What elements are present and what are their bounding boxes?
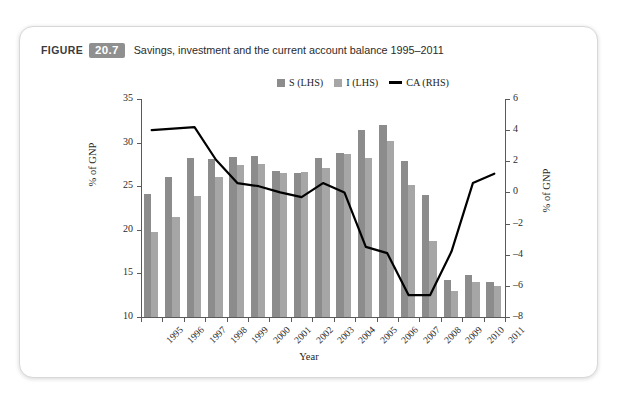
- x-axis-tick: [441, 318, 442, 322]
- y-axis-left-tick-label: 30: [107, 136, 133, 147]
- x-axis-tick: [184, 318, 185, 322]
- x-axis-tick-label: 2007: [420, 324, 441, 345]
- y-axis-left-tick: [137, 273, 141, 274]
- chart-plot-panel: S (LHS)I (LHS)CA (RHS) 101520253035 –8–6…: [73, 73, 545, 361]
- x-axis-tick: [162, 318, 163, 322]
- legend-label: CA (RHS): [406, 77, 449, 88]
- y-axis-left-tick-label: 10: [107, 310, 133, 321]
- y-axis-left-label: % of GNP: [87, 143, 98, 187]
- y-axis-right-tick-label: –4: [513, 248, 539, 259]
- y-axis-right-tick: [506, 317, 510, 318]
- x-axis-tick: [484, 318, 485, 322]
- y-axis-left-tick: [137, 99, 141, 100]
- x-axis-tick: [419, 318, 420, 322]
- x-axis-tick-label: 1995: [163, 324, 184, 345]
- y-axis-left-tick-label: 25: [107, 179, 133, 190]
- x-axis-tick-label: 1998: [228, 324, 249, 345]
- y-axis-right-tick-label: –8: [513, 310, 539, 321]
- chart-legend: S (LHS)I (LHS)CA (RHS): [233, 77, 493, 88]
- x-axis-tick-label: 2004: [356, 324, 377, 345]
- y-axis-right-tick: [506, 286, 510, 287]
- legend-item: I (LHS): [334, 77, 378, 88]
- x-axis-line: [141, 317, 506, 318]
- x-axis-tick: [312, 318, 313, 322]
- y-axis-left-tick-label: 35: [107, 92, 133, 103]
- figure-number-badge: 20.7: [89, 43, 125, 58]
- x-axis-tick: [291, 318, 292, 322]
- x-axis-tick: [334, 318, 335, 322]
- x-axis-tick-label: 1996: [185, 324, 206, 345]
- x-axis-tick: [462, 318, 463, 322]
- x-axis-tick: [248, 318, 249, 322]
- x-axis-tick: [141, 318, 142, 322]
- x-axis-tick: [269, 318, 270, 322]
- x-axis-label: Year: [73, 351, 545, 362]
- x-axis-tick-label: 1997: [206, 324, 227, 345]
- x-axis-tick-label: 1999: [249, 324, 270, 345]
- legend-label: I (LHS): [346, 77, 378, 88]
- legend-square-swatch-icon: [334, 79, 342, 87]
- legend-line-swatch-icon: [389, 81, 402, 84]
- x-axis-tick: [505, 318, 506, 322]
- caption-title: Savings, investment and the current acco…: [134, 44, 444, 56]
- ca-line-path: [152, 127, 495, 295]
- x-axis-tick-label: 2001: [292, 324, 313, 345]
- x-axis-tick-label: 2000: [270, 324, 291, 345]
- legend-item: S (LHS): [277, 77, 323, 88]
- x-axis-tick-label: 2011: [506, 324, 527, 345]
- y-axis-right-tick: [506, 130, 510, 131]
- y-axis-right-tick: [506, 224, 510, 225]
- y-axis-right-label: % of GNP: [541, 169, 552, 213]
- x-axis-tick-label: 2009: [463, 324, 484, 345]
- x-axis-tick: [355, 318, 356, 322]
- legend-item: CA (RHS): [389, 77, 449, 88]
- legend-square-swatch-icon: [277, 79, 285, 87]
- legend-label: S (LHS): [289, 77, 323, 88]
- x-axis-tick-label: 2002: [313, 324, 334, 345]
- x-axis-tick-label: 2010: [484, 324, 505, 345]
- x-axis-tick: [205, 318, 206, 322]
- y-axis-left-tick: [137, 317, 141, 318]
- x-axis-tick-label: 2006: [399, 324, 420, 345]
- caption-label: FIGURE: [41, 44, 83, 56]
- y-axis-left-tick-label: 20: [107, 223, 133, 234]
- y-axis-left-tick: [137, 186, 141, 187]
- y-axis-right-tick-label: 4: [513, 123, 539, 134]
- x-axis-tick-label: 2003: [335, 324, 356, 345]
- x-axis-tick: [398, 318, 399, 322]
- y-axis-right-tick-label: 0: [513, 185, 539, 196]
- x-axis-tick-label: 2005: [377, 324, 398, 345]
- y-axis-right-tick: [506, 161, 510, 162]
- y-axis-right-tick-label: 6: [513, 92, 539, 103]
- figure-card: FIGURE 20.7 Savings, investment and the …: [19, 26, 598, 378]
- figure-caption: FIGURE 20.7 Savings, investment and the …: [41, 41, 444, 59]
- y-axis-left-tick-label: 15: [107, 266, 133, 277]
- x-axis-tick-label: 2008: [442, 324, 463, 345]
- y-axis-right-tick-label: –2: [513, 217, 539, 228]
- y-axis-right-tick-label: –6: [513, 279, 539, 290]
- y-axis-right-tick: [506, 255, 510, 256]
- y-axis-right-tick: [506, 99, 510, 100]
- y-axis-left-tick: [137, 143, 141, 144]
- y-axis-right-tick: [506, 192, 510, 193]
- y-axis-right-tick-label: 2: [513, 154, 539, 165]
- x-axis-tick: [377, 318, 378, 322]
- ca-line-series: [141, 99, 505, 317]
- y-axis-left-tick: [137, 230, 141, 231]
- x-axis-tick: [227, 318, 228, 322]
